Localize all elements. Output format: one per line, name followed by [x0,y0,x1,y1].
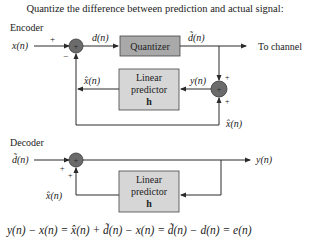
quantized-label: d̃(n) [188,31,205,44]
quantizer-label: Quantizer [130,41,170,52]
quantizer-block: Quantizer [120,36,180,56]
encoder-feedback-label: x̂(n) [225,118,243,130]
encoder-prediction-label: x̂(n) [83,75,101,87]
sum2-top-sign: + [225,73,230,82]
diagram-title: Quantize the difference between predicti… [26,3,283,14]
svg-text:+: + [217,85,222,94]
svg-text:+: + [74,156,79,165]
decoder-branch-to-predictor [181,160,221,195]
decoder-prediction-feedback [76,168,119,195]
svg-text:+: + [74,42,79,51]
decoder-output-label: y(n) [255,154,273,166]
sum1-minus-sign: − [63,51,68,61]
decoder-sum-left-sign: + [60,164,65,173]
to-channel-label: To channel [258,41,302,52]
encoder-predictor-line3: h [146,96,152,107]
decoder-predictor-line1: Linear [136,174,163,185]
error-equation: y(n) − x(n) = x̂(n) + d̃(n) − x(n) = d̃(… [6,223,252,237]
decoder-label: Decoder [10,137,45,148]
dpcm-block-diagram: Quantize the difference between predicti… [0,0,309,252]
encoder-input-label: x(n) [11,40,29,52]
decoder-predictor-line3: h [146,198,152,209]
decoder-input-label: d̃(n) [12,153,29,166]
encoder-y-label: y(n) [189,75,207,87]
decoder-predictor-line2: predictor [131,186,168,197]
decoder-linear-predictor-block: Linear predictor h [119,171,179,212]
encoder-summer-1: + [69,39,83,53]
decoder-prediction-label: x̂(n) [45,190,63,202]
decoder-summer: + [69,153,83,167]
encoder-predictor-line1: Linear [136,72,163,83]
sum1-plus-sign: + [50,34,55,44]
diff-label: d(n) [92,32,109,44]
sum2-bottom-sign: + [225,97,230,106]
decoder-sum-bottom-sign: + [68,171,73,180]
encoder-summer-2: + [211,81,227,97]
encoder-label: Encoder [10,22,44,33]
encoder-linear-predictor-block: Linear predictor h [119,69,179,110]
encoder-predictor-line2: predictor [131,84,168,95]
